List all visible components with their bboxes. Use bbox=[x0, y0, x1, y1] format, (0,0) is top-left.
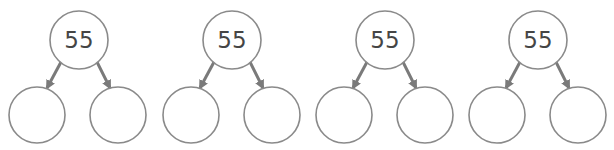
arrow-left-icon bbox=[47, 62, 61, 88]
number-bond-tree-4: 55 bbox=[469, 11, 606, 143]
number-bond-tree-1: 55 bbox=[9, 11, 146, 143]
child-node-right-empty[interactable] bbox=[397, 87, 453, 143]
arrow-right-icon bbox=[556, 62, 569, 88]
child-node-left-empty[interactable] bbox=[469, 87, 525, 143]
arrow-right-icon bbox=[97, 62, 110, 88]
child-node-left-empty[interactable] bbox=[316, 87, 372, 143]
arrow-right-icon bbox=[250, 62, 263, 88]
child-node-right-empty[interactable] bbox=[244, 87, 300, 143]
arrow-left-icon bbox=[200, 62, 214, 88]
arrow-left-icon bbox=[506, 62, 520, 88]
child-node-right-empty[interactable] bbox=[550, 87, 606, 143]
child-node-right-empty[interactable] bbox=[90, 87, 146, 143]
arrow-left-icon bbox=[353, 62, 367, 88]
number-bond-tree-2: 55 bbox=[163, 11, 300, 143]
root-node-label: 55 bbox=[370, 27, 399, 53]
root-node-label: 55 bbox=[217, 27, 246, 53]
root-node-label: 55 bbox=[64, 27, 93, 53]
arrow-right-icon bbox=[403, 62, 416, 88]
child-node-left-empty[interactable] bbox=[163, 87, 219, 143]
child-node-left-empty[interactable] bbox=[9, 87, 65, 143]
root-node-label: 55 bbox=[523, 27, 552, 53]
number-bond-diagram: 55 55 55 55 bbox=[0, 0, 614, 150]
number-bond-tree-3: 55 bbox=[316, 11, 453, 143]
